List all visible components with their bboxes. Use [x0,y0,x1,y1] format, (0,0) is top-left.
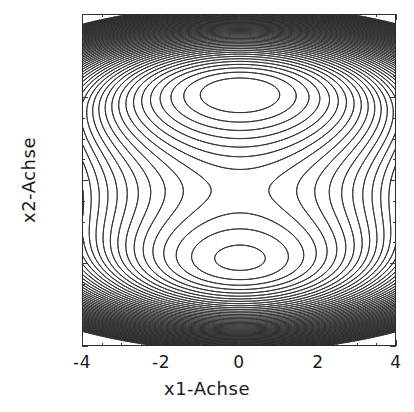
y-tick-mark-right [393,242,396,243]
x-tick-mark [180,343,181,346]
y-tick-mark [82,97,88,98]
y-tick-mark [82,56,85,57]
x-tick-mark-top [180,14,181,17]
x-tick-mark [219,343,220,346]
y-tick-mark-right [393,56,396,57]
x-tick-mark-top [259,14,260,17]
y-tick-mark-right [393,118,396,119]
x-tick-mark [278,343,279,346]
x-tick-mark [239,340,240,346]
y-tick-mark [82,242,85,243]
x-tick-mark [200,343,201,346]
y-tick-mark [82,346,88,347]
y-tick-mark [82,263,88,264]
x-tick-mark-top [161,14,162,20]
y-tick-mark-right [393,76,396,77]
y-tick-mark-right [393,201,396,202]
x-tick-mark [396,340,397,346]
x-tick-mark [102,343,103,346]
x-tick-label-4: 4 [390,352,401,372]
y-axis-label: x2-Achse [18,90,39,270]
x-tick-mark-top [141,14,142,17]
plot-frame [82,14,396,346]
y-tick-mark-right [390,14,396,15]
y-tick-mark-right [390,97,396,98]
x-tick-mark [121,343,122,346]
x-tick-mark-top [376,14,377,17]
x-tick-mark-top [357,14,358,17]
y-tick-mark [82,118,85,119]
x-tick-label-m4: -4 [73,352,91,372]
contour-figure: x2-Achse 4 2 0 -2 -4 -4 -2 0 2 4 x1-Achs… [0,0,414,412]
y-tick-mark [82,76,85,77]
x-tick-mark-top [102,14,103,17]
y-tick-mark-right [393,159,396,160]
x-tick-mark-top [298,14,299,17]
x-axis-label: x1-Achse [0,378,414,399]
x-tick-label-0: 0 [233,352,244,372]
x-tick-mark [298,343,299,346]
x-tick-mark [337,343,338,346]
x-tick-label-m2: -2 [152,352,170,372]
y-tick-mark [82,305,85,306]
x-tick-mark-top [337,14,338,17]
y-tick-mark [82,201,85,202]
x-tick-mark [376,343,377,346]
x-tick-mark-top [121,14,122,17]
y-tick-mark [82,284,85,285]
y-tick-mark [82,222,85,223]
y-tick-mark-right [393,284,396,285]
x-tick-mark [259,343,260,346]
y-tick-mark-right [390,346,396,347]
y-tick-mark [82,159,85,160]
x-tick-mark-top [318,14,319,20]
y-tick-mark-right [393,325,396,326]
x-tick-mark [141,343,142,346]
x-tick-mark-top [219,14,220,17]
y-tick-mark-right [393,35,396,36]
y-tick-mark-right [393,222,396,223]
y-tick-mark-right [390,263,396,264]
x-tick-mark-top [239,14,240,20]
x-tick-mark [357,343,358,346]
y-tick-mark [82,139,85,140]
contour-plot-canvas [83,15,396,346]
y-tick-mark-right [393,305,396,306]
y-tick-mark [82,35,85,36]
y-tick-mark-right [393,139,396,140]
x-tick-label-2: 2 [312,352,323,372]
y-tick-mark-right [390,180,396,181]
x-tick-mark [161,340,162,346]
y-tick-mark [82,325,85,326]
x-tick-mark-top [278,14,279,17]
x-tick-mark-top [396,14,397,20]
x-tick-mark-top [200,14,201,17]
y-tick-mark [82,180,88,181]
y-tick-mark [82,14,88,15]
x-tick-mark [318,340,319,346]
